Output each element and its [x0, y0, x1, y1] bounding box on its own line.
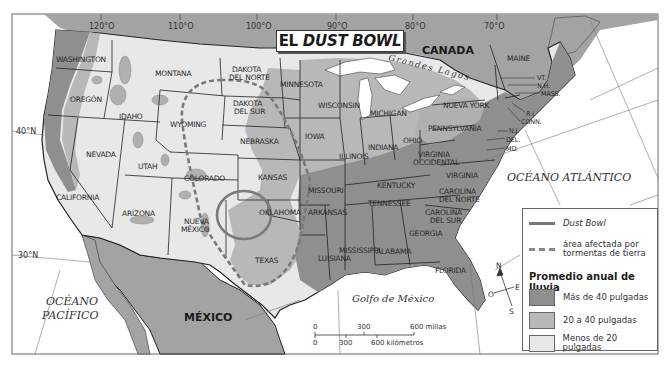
label-ohio: OHIO — [403, 136, 422, 145]
label-oregon: OREGÓN — [70, 95, 102, 104]
label-missouri: MISSOURI — [308, 186, 343, 195]
label-atlantic: OCÉANO ATLÁNTICO — [507, 170, 631, 184]
legend-storm-area-label: área afectada por tormentas de tierra — [563, 240, 646, 258]
label-pacific-1: OCÉANO — [46, 294, 98, 308]
label-carolina-norte-2: DEL NORTE — [439, 195, 480, 204]
label-tennessee: TENNESSEE — [367, 199, 411, 208]
solid-line-icon — [529, 222, 555, 225]
scale-km-300: 300 — [339, 339, 352, 347]
label-ri: R.I. — [526, 110, 536, 118]
label-pacific-2: PACÍFICO — [41, 308, 99, 322]
scale-km-0: 0 — [313, 339, 317, 347]
rain-mid-swatch — [529, 312, 555, 329]
rain-high-swatch — [529, 289, 555, 306]
label-nebraska: NEBRASKA — [240, 137, 280, 146]
label-kentucky: KENTUCKY — [377, 181, 416, 190]
label-kansas: KANSAS — [258, 173, 288, 182]
label-nevada: NEVADA — [86, 150, 117, 159]
label-mexico: MÉXICO — [184, 311, 232, 324]
compass-n: N — [496, 261, 501, 270]
label-florida: FLORIDA — [435, 266, 467, 275]
label-michigan: MICHIGAN — [370, 109, 407, 118]
label-canada: CANADA — [422, 44, 474, 57]
lon-100: 100°O — [246, 22, 272, 31]
lat-30: 30°N — [18, 251, 38, 260]
label-carolina-sur-2: DEL SUR — [430, 216, 461, 225]
label-idaho: IDAHO — [119, 112, 143, 121]
lon-110: 110°O — [168, 22, 194, 31]
label-gulf: Golfo de México — [352, 293, 434, 304]
legend-dust-bowl-label: Dust Bowl — [563, 219, 606, 228]
label-maine: MAINE — [507, 54, 531, 63]
legend-rain-low-label: Menos de 20 pulgadas — [563, 334, 657, 352]
scale-bar: 0 300 600 millas 0 300 600 kilómetros — [312, 323, 462, 353]
label-wisconsin: WISCONSIN — [318, 101, 360, 110]
title-italic: DUST BOWL — [303, 32, 401, 50]
label-md: MD. — [506, 145, 518, 153]
label-iowa: IOWA — [305, 132, 326, 141]
label-del: DEL. — [506, 136, 520, 144]
legend-rain-mid-label: 20 a 40 pulgadas — [563, 316, 637, 325]
map-title: EL DUST BOWL — [276, 30, 404, 52]
label-washington: WASHINGTON — [56, 55, 106, 64]
lon-120: 120°O — [89, 22, 115, 31]
label-minnesota: MINNESOTA — [280, 80, 324, 89]
label-virginia: VIRGINIA — [446, 171, 479, 180]
legend-storm-area: área afectada por tormentas de tierra — [529, 240, 646, 258]
label-mass: MASS. — [541, 90, 561, 98]
label-illinois: ILLINOIS — [339, 152, 369, 161]
label-wyoming: WYOMING — [170, 120, 207, 129]
label-texas: TEXAS — [254, 256, 279, 265]
label-nj: N.J. — [509, 127, 519, 135]
label-virginia-occ-2: OCCIDENTAL — [413, 158, 460, 167]
legend-dust-bowl: Dust Bowl — [529, 219, 606, 228]
label-pennsylvania: PENNSYLVANIA — [428, 124, 483, 133]
label-arkansas: ARKANSAS — [308, 208, 347, 217]
legend-rain-high-label: Más de 40 pulgadas — [563, 293, 648, 302]
label-georgia: GEORGIA — [409, 229, 443, 238]
lat-40: 40°N — [16, 127, 36, 136]
label-arizona: ARIZONA — [122, 209, 156, 218]
scale-miles-600: 600 millas — [410, 323, 446, 331]
label-alabama: ALABAMA — [376, 247, 412, 256]
label-luisiana: LUISIANA — [318, 254, 352, 263]
lon-70: 70°O — [484, 22, 504, 31]
scale-miles-300: 300 — [357, 323, 370, 331]
rain-low-swatch — [529, 335, 555, 352]
lon-80: 80°O — [405, 22, 425, 31]
label-indiana: INDIANA — [368, 143, 399, 152]
label-california: CALIFORNIA — [56, 193, 100, 202]
legend: Dust Bowl área afectada por tormentas de… — [522, 208, 658, 351]
label-nueva-york: NUEVA YORK — [443, 101, 490, 110]
compass-o: O — [488, 290, 494, 299]
legend-storm-area-line2: tormentas de tierra — [563, 248, 646, 258]
legend-rain-low: Menos de 20 pulgadas — [529, 334, 657, 352]
label-montana: MONTANA — [155, 69, 193, 78]
label-nuevo-mexico-2: MÉXICO — [181, 225, 210, 234]
label-utah: UTAH — [138, 162, 157, 171]
label-vt: VT. — [537, 74, 546, 82]
dashed-line-icon — [529, 248, 555, 251]
label-nh: N.H. — [537, 82, 550, 90]
scale-km-600: 600 kilómetros — [371, 339, 423, 347]
compass-s: S — [509, 307, 514, 316]
label-oklahoma: OKLAHOMA — [259, 208, 302, 217]
label-conn: CONN. — [521, 118, 542, 126]
scale-miles-0: 0 — [313, 323, 317, 331]
label-colorado: COLORADO — [184, 174, 225, 183]
label-mississippi: MISSISSIPPI — [339, 246, 380, 255]
label-dakota-sur-2: DEL SUR — [234, 107, 265, 116]
legend-rain-high: Más de 40 pulgadas — [529, 289, 648, 306]
legend-rain-mid: 20 a 40 pulgadas — [529, 312, 637, 329]
label-dakota-norte-2: DEL NORTE — [229, 73, 270, 82]
compass-e: E — [515, 283, 520, 292]
title-prefix: EL — [279, 32, 298, 50]
